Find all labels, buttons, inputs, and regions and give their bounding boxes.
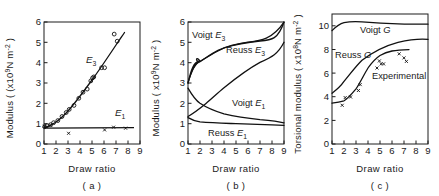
chart-b-curve-reuss-e1 — [188, 118, 284, 126]
svg-text:4: 4 — [365, 145, 370, 156]
svg-text:5: 5 — [233, 145, 238, 156]
svg-text:0: 0 — [324, 138, 329, 149]
chart-c-svg: Torsional modulus ( x108N m-2 ) 0 2 4 6 … — [288, 0, 439, 196]
svg-text:5: 5 — [377, 145, 382, 156]
svg-text:8: 8 — [413, 145, 418, 156]
svg-text:1: 1 — [41, 145, 46, 156]
svg-text:2: 2 — [324, 115, 329, 126]
svg-text:1: 1 — [185, 145, 190, 156]
chart-c-label-experimental: Experimental — [372, 71, 426, 81]
chart-a-points-e3 — [43, 32, 119, 128]
svg-text:9: 9 — [137, 145, 142, 156]
svg-text:6: 6 — [36, 16, 41, 27]
svg-text:8: 8 — [125, 145, 130, 156]
svg-text:8: 8 — [324, 44, 329, 55]
svg-text:4: 4 — [36, 57, 41, 68]
chart-a-xticks — [44, 141, 140, 145]
svg-text:1: 1 — [36, 118, 41, 129]
chart-c-curve-reuss-g — [332, 39, 428, 93]
chart-b-xlabel: Draw ratio — [212, 163, 259, 174]
chart-panel-c: Torsional modulus ( x108N m-2 ) 0 2 4 6 … — [288, 0, 439, 196]
svg-text:Modulus ( x109N m-2 ): Modulus ( x109N m-2 ) — [150, 40, 161, 137]
chart-b-label-reuss-e3: Reuss E3 — [226, 45, 265, 57]
svg-text:7: 7 — [401, 145, 406, 156]
chart-c-label-reuss-g: Reuss G — [335, 50, 371, 60]
svg-text:7: 7 — [113, 145, 118, 156]
chart-b-label-reuss-e1: Reuss E1 — [208, 128, 247, 140]
chart-b-xticks — [188, 141, 284, 145]
chart-c-ylabel: Torsional modulus ( x108N m-2 ) — [292, 14, 303, 154]
svg-text:9: 9 — [425, 145, 430, 156]
chart-b-yticklabels: 0 1 2 3 4 5 6 — [180, 16, 185, 149]
svg-text:2: 2 — [341, 145, 346, 156]
svg-text:3: 3 — [65, 145, 70, 156]
chart-a-label-e1: E1 — [115, 107, 126, 120]
svg-text:2: 2 — [53, 145, 58, 156]
chart-c-yticks — [332, 26, 336, 144]
svg-text:2: 2 — [197, 145, 202, 156]
chart-b-label-voigt-e3: Voigt E3 — [192, 30, 225, 42]
chart-c-caption: ( c ) — [371, 180, 389, 191]
svg-text:3: 3 — [36, 77, 41, 88]
svg-text:6: 6 — [180, 16, 185, 27]
svg-text:5: 5 — [180, 37, 185, 48]
svg-text:Modulus ( (x109N m-2 ): Modulus ( (x109N m-2 ) — [4, 38, 15, 138]
chart-c-yticklabels: 0 2 4 6 8 10 — [318, 20, 329, 149]
chart-a-label-e3: E3 — [86, 54, 97, 67]
chart-a-caption: ( a ) — [83, 180, 102, 191]
svg-text:6: 6 — [101, 145, 106, 156]
svg-text:4: 4 — [180, 57, 185, 68]
svg-text:1: 1 — [329, 145, 334, 156]
chart-panel-a: Modulus ( (x109N m-2 ) 0 1 2 3 4 — [0, 0, 148, 196]
chart-c-xlabel: Draw ratio — [356, 163, 403, 174]
chart-a-xticklabels: 1 2 3 4 5 6 7 8 9 — [41, 145, 142, 156]
chart-a-ylabel: Modulus ( (x109N m-2 ) — [4, 38, 15, 138]
svg-text:4: 4 — [77, 145, 82, 156]
svg-text:4: 4 — [221, 145, 226, 156]
svg-text:5: 5 — [36, 37, 41, 48]
chart-a-points-e1 — [43, 124, 127, 135]
svg-text:3: 3 — [209, 145, 214, 156]
chart-a-svg: Modulus ( (x109N m-2 ) 0 1 2 3 4 — [0, 0, 148, 196]
svg-text:10: 10 — [318, 20, 329, 31]
chart-a-xlabel: Draw ratio — [68, 163, 115, 174]
chart-c-xticks — [332, 141, 428, 145]
svg-text:6: 6 — [389, 145, 394, 156]
chart-panel-b: Modulus ( x109N m-2 ) 0 1 2 3 4 5 — [146, 0, 292, 196]
svg-text:4: 4 — [324, 91, 329, 102]
svg-text:0: 0 — [36, 138, 41, 149]
svg-text:3: 3 — [180, 77, 185, 88]
chart-b-svg: Modulus ( x109N m-2 ) 0 1 2 3 4 5 — [146, 0, 292, 196]
svg-text:3: 3 — [353, 145, 358, 156]
chart-a-frame — [44, 22, 140, 144]
figure-container: Modulus ( (x109N m-2 ) 0 1 2 3 4 — [0, 0, 439, 196]
chart-a-curve-e3 — [45, 33, 125, 128]
svg-text:5: 5 — [89, 145, 94, 156]
svg-text:9: 9 — [281, 145, 286, 156]
chart-b-label-voigt-e1: Voigt E1 — [232, 98, 265, 110]
chart-b-ylabel: Modulus ( x109N m-2 ) — [150, 40, 161, 137]
svg-text:2: 2 — [36, 98, 41, 109]
svg-text:1: 1 — [180, 118, 185, 129]
chart-b-caption: ( b ) — [227, 180, 246, 191]
svg-text:6: 6 — [324, 68, 329, 79]
chart-c-label-voigt-g: Voigt G — [360, 25, 391, 35]
svg-text:2: 2 — [180, 98, 185, 109]
svg-text:0: 0 — [180, 138, 185, 149]
chart-a-yticklabels: 0 1 2 3 4 5 6 — [36, 16, 41, 149]
chart-b-xticklabels: 1 2 3 4 5 6 7 8 9 — [185, 145, 286, 156]
chart-b-frame — [188, 22, 284, 144]
svg-text:7: 7 — [257, 145, 262, 156]
svg-text:8: 8 — [269, 145, 274, 156]
svg-text:Torsional modulus ( x108N m-2: Torsional modulus ( x108N m-2 ) — [292, 14, 303, 154]
chart-c-xticklabels: 1 2 3 4 5 6 7 8 9 — [329, 145, 430, 156]
svg-text:6: 6 — [245, 145, 250, 156]
